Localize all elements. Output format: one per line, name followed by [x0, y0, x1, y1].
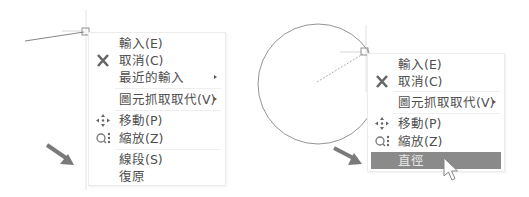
arrow-right-down-icon [334, 148, 362, 165]
mouse-pointer-icon [443, 157, 461, 183]
menu-item-pan[interactable]: 移動(P) [368, 115, 504, 132]
arrow-right-down-icon [47, 145, 74, 165]
menu-item-cancel[interactable]: 取消(C) [368, 73, 504, 90]
cancel-x-icon [374, 74, 390, 89]
move-icon [95, 113, 111, 128]
line-segment [25, 32, 84, 41]
cancel-x-icon [95, 53, 111, 68]
menu-item-label: 取消(C) [398, 74, 442, 89]
move-icon [374, 116, 390, 131]
menu-separator [115, 110, 221, 111]
menu-item-pan[interactable]: 移動(P) [89, 112, 225, 129]
menu-item-recent-input[interactable]: 最近的輸入 [89, 69, 225, 86]
menu-separator [115, 149, 221, 150]
context-menu-right: 輸入(E) 取消(C) 圖元抓取取代(V) 移動(P) 縮放(Z) 直徑 [367, 53, 505, 172]
menu-item-label: 線段(S) [119, 152, 163, 167]
menu-item-label: 取消(C) [119, 53, 163, 68]
menu-item-label: 圖元抓取取代(V) [398, 95, 494, 110]
menu-item-label: 圖元抓取取代(V) [119, 92, 215, 107]
menu-item-cancel[interactable]: 取消(C) [89, 52, 225, 69]
menu-item-snap-override[interactable]: 圖元抓取取代(V) [89, 91, 225, 108]
menu-item-label: 直徑 [398, 153, 424, 168]
menu-separator [394, 91, 500, 92]
menu-item-label: 縮放(Z) [119, 131, 163, 146]
menu-item-label: 輸入(E) [398, 57, 442, 72]
menu-item-label: 縮放(Z) [398, 134, 442, 149]
menu-separator [394, 113, 500, 114]
submenu-arrow-icon [214, 75, 217, 79]
menu-item-label: 復原 [119, 169, 145, 184]
menu-item-diameter[interactable]: 直徑 [371, 152, 501, 169]
circle-shape [258, 24, 378, 144]
menu-item-enter[interactable]: 輸入(E) [89, 35, 225, 52]
menu-item-label: 移動(P) [398, 116, 441, 131]
menu-item-label: 輸入(E) [119, 36, 163, 51]
zoom-icon [374, 134, 390, 149]
menu-item-enter[interactable]: 輸入(E) [368, 56, 504, 73]
submenu-arrow-icon [214, 97, 217, 101]
submenu-arrow-icon [493, 100, 496, 104]
context-menu-left: 輸入(E) 取消(C) 最近的輸入 圖元抓取取代(V) 移動(P) 縮放(Z) … [88, 32, 226, 186]
menu-item-zoom[interactable]: 縮放(Z) [368, 133, 504, 150]
menu-item-label: 最近的輸入 [119, 70, 184, 85]
crosshair-cursor [340, 25, 368, 92]
menu-separator [115, 88, 221, 89]
menu-item-line-segment[interactable]: 線段(S) [89, 151, 225, 168]
menu-item-label: 移動(P) [119, 113, 162, 128]
menu-item-snap-override[interactable]: 圖元抓取取代(V) [368, 94, 504, 111]
menu-item-zoom[interactable]: 縮放(Z) [89, 130, 225, 147]
menu-item-undo[interactable]: 復原 [89, 168, 225, 185]
zoom-icon [95, 131, 111, 146]
